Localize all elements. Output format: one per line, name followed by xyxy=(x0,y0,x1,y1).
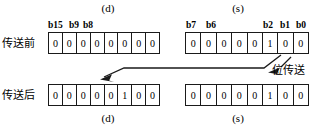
bit-label-b15: b15 xyxy=(48,20,63,31)
bit-cell: 0 xyxy=(91,85,105,105)
bit-cell: 0 xyxy=(77,33,91,53)
caption-src-bottom: (s) xyxy=(208,112,268,125)
bit-cell: 0 xyxy=(232,33,247,53)
register-dest-before: 00000000 xyxy=(48,32,160,54)
register-src-before: 00000100 xyxy=(185,32,309,54)
bit-cell: 0 xyxy=(186,85,201,105)
bit-cell: 0 xyxy=(63,85,77,105)
caption-src-top: (s) xyxy=(208,2,268,15)
bit-label-b1: b1 xyxy=(280,20,290,31)
bit-cell: 0 xyxy=(146,33,159,53)
bit-cell: 0 xyxy=(146,85,159,105)
bit-label-b0: b0 xyxy=(296,20,306,31)
bit-cell: 1 xyxy=(263,33,278,53)
row-label-before-transfer: 传送前 xyxy=(2,37,35,51)
bit-cell: 0 xyxy=(132,85,146,105)
bit-transfer-diagram: (d) (s) 传送前 传送后 b15 b9 b8 b7 b6 b2 b1 b0… xyxy=(0,0,313,134)
bit-cell: 1 xyxy=(118,85,132,105)
bit-cell: 0 xyxy=(278,33,293,53)
transfer-arrowhead-dest xyxy=(100,74,114,82)
bit-cell: 0 xyxy=(105,85,119,105)
transfer-arrow-path xyxy=(104,55,281,77)
bit-labels-dest: b15 b9 b8 xyxy=(48,20,160,31)
bit-labels-src: b7 b6 b2 b1 b0 xyxy=(185,20,309,31)
bit-cell: 0 xyxy=(248,33,263,53)
bit-cell: 0 xyxy=(201,33,216,53)
caption-dest-top: (d) xyxy=(78,2,138,15)
bit-label-b2: b2 xyxy=(263,20,273,31)
bit-cell: 0 xyxy=(49,85,63,105)
bit-label-b7: b7 xyxy=(186,20,196,31)
caption-dest-bottom: (d) xyxy=(78,112,138,125)
bit-label-b9: b9 xyxy=(69,20,79,31)
bit-cell: 0 xyxy=(217,85,232,105)
bit-cell: 0 xyxy=(217,33,232,53)
bit-cell: 0 xyxy=(118,33,132,53)
bit-cell: 0 xyxy=(77,85,91,105)
bit-cell: 0 xyxy=(232,85,247,105)
bit-cell: 0 xyxy=(248,85,263,105)
register-dest-after: 00000100 xyxy=(48,84,160,106)
bit-cell: 0 xyxy=(294,85,308,105)
bit-cell: 0 xyxy=(49,33,63,53)
bit-cell: 1 xyxy=(263,85,278,105)
bit-cell: 0 xyxy=(105,33,119,53)
annotation-bit-transfer: 位传送 xyxy=(272,64,305,77)
bit-cell: 0 xyxy=(63,33,77,53)
bit-cell: 0 xyxy=(294,33,308,53)
bit-cell: 0 xyxy=(132,33,146,53)
bit-cell: 0 xyxy=(186,33,201,53)
bit-cell: 0 xyxy=(91,33,105,53)
bit-label-b6: b6 xyxy=(206,20,216,31)
register-src-after: 00000100 xyxy=(185,84,309,106)
row-label-after-transfer: 传送后 xyxy=(2,89,35,103)
bit-label-b8: b8 xyxy=(83,20,93,31)
bit-cell: 0 xyxy=(278,85,293,105)
bit-cell: 0 xyxy=(201,85,216,105)
